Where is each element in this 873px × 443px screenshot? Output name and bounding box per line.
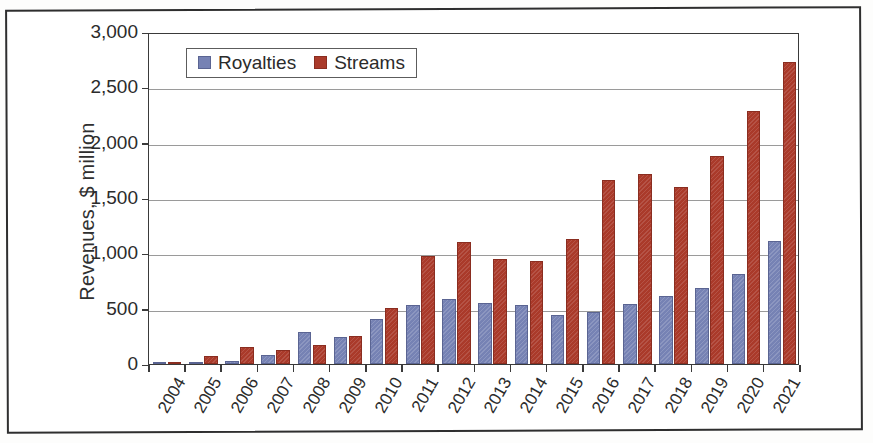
y-axis-tick-label: 1,500 [78,187,138,209]
bar-streams-2007 [276,350,290,364]
x-axis-tick-mark [727,365,729,372]
bar-royalties-2006 [225,361,239,364]
gridline [149,200,798,201]
x-axis-tick-mark [437,365,439,372]
bar-streams-2019 [710,156,724,364]
bar-royalties-2012 [442,299,456,364]
x-axis-tick-mark [220,365,222,372]
x-axis-tick-mark [546,365,548,372]
bar-streams-2020 [747,111,761,364]
bar-royalties-2011 [406,305,420,364]
x-axis-tick-mark [654,365,656,372]
bar-royalties-2017 [623,304,637,364]
bar-royalties-2005 [189,362,203,364]
bar-streams-2004 [168,362,182,364]
bar-royalties-2008 [298,332,312,364]
bar-royalties-2015 [551,315,565,364]
bar-streams-2011 [421,256,435,364]
legend-swatch-royalties-icon [198,56,211,69]
bar-streams-2014 [530,261,544,364]
gridline [149,255,798,256]
scanned-page: Revenues, $ million 05001,0001,5002,0002… [0,0,873,443]
bar-royalties-2019 [695,288,709,364]
y-axis-tick-label: 500 [78,298,138,320]
gridline [149,89,798,90]
x-axis-tick-mark [293,365,295,372]
x-axis-tick-mark [474,365,476,372]
legend-entry-streams: Streams [314,53,405,72]
bar-streams-2018 [674,187,688,364]
x-axis-tick-mark [691,365,693,372]
x-axis-tick-mark [582,365,584,372]
bar-streams-2008 [313,345,327,364]
bar-royalties-2014 [515,305,529,364]
x-axis-tick-mark [257,365,259,372]
legend-entry-royalties: Royalties [198,53,296,72]
bar-streams-2013 [493,259,507,364]
legend-label-royalties: Royalties [218,53,296,72]
x-axis-tick-mark [329,365,331,372]
bar-streams-2006 [240,347,254,364]
x-axis-tick-mark [618,365,620,372]
bar-royalties-2004 [153,362,167,364]
bar-royalties-2010 [370,319,384,364]
bar-chart-figure: Revenues, $ million 05001,0001,5002,0002… [0,0,873,443]
bar-streams-2017 [638,174,652,364]
bar-streams-2010 [385,308,399,364]
x-axis-tick-mark [763,365,765,372]
bar-streams-2009 [349,336,363,364]
chart-legend: Royalties Streams [186,48,417,78]
y-axis-tick-label: 2,500 [78,76,138,98]
bar-streams-2005 [204,356,218,364]
bar-royalties-2013 [478,303,492,364]
y-axis-tick-label: 1,000 [78,242,138,264]
bar-royalties-2016 [587,312,601,364]
bar-streams-2012 [457,242,471,364]
x-axis-tick-mark [148,365,150,372]
bar-royalties-2021 [768,241,782,364]
y-axis-tick-label: 2,000 [78,132,138,154]
bar-royalties-2007 [261,355,275,364]
legend-label-streams: Streams [334,53,405,72]
bar-royalties-2020 [732,274,746,364]
bar-streams-2015 [566,239,580,364]
bar-royalties-2018 [659,296,673,364]
gridline [149,145,798,146]
y-axis-tick-label: 0 [78,353,138,375]
legend-swatch-streams-icon [314,56,327,69]
x-axis-tick-mark [401,365,403,372]
x-axis-tick-mark [510,365,512,372]
plot-area [148,33,799,365]
x-axis-tick-mark [184,365,186,372]
x-axis-tick-mark [365,365,367,372]
y-axis-tick-label: 3,000 [78,21,138,43]
bar-streams-2021 [783,62,797,364]
x-axis-tick-mark [799,365,801,372]
bar-streams-2016 [602,180,616,364]
bar-royalties-2009 [334,337,348,364]
plot-inner [149,34,798,364]
